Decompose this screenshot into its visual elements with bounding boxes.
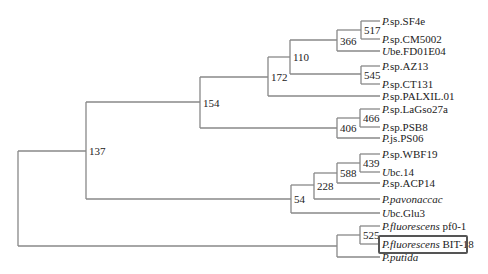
bootstrap-value: 154 (202, 97, 221, 109)
bootstrap-value: 172 (270, 71, 289, 83)
taxon-label: P.pavonaccac (382, 193, 443, 205)
bootstrap-value: 137 (88, 145, 107, 157)
bootstrap-value: 228 (316, 180, 335, 192)
taxon-label: P.sp.LaGso27a (382, 103, 448, 115)
bootstrap-value: 366 (339, 35, 358, 47)
bootstrap-value: 54 (293, 193, 306, 205)
bootstrap-value: 406 (339, 122, 358, 134)
taxon-label: P.sp.WBF19 (382, 148, 437, 160)
bootstrap-value: 588 (339, 167, 358, 179)
taxon-label: P.sp.CT131 (382, 78, 433, 90)
bootstrap-value: 545 (363, 69, 382, 81)
bootstrap-value: 439 (362, 157, 381, 169)
taxon-label: P.js.PS06 (382, 132, 423, 144)
taxon-label: Ubc.Glu3 (382, 207, 425, 219)
taxon-label: P.sp.AZ13 (382, 60, 428, 72)
bootstrap-value: 517 (363, 24, 382, 36)
taxon-label: P.putida (382, 251, 418, 263)
bootstrap-value: 110 (292, 51, 310, 63)
taxon-label: P.sp.SF4e (382, 15, 425, 27)
taxon-label: Ube.FD01E04 (382, 45, 446, 57)
bootstrap-value: 466 (362, 112, 381, 124)
taxon-label: P.sp.CM5002 (382, 33, 442, 45)
taxon-label: P.fluorescens pf0-1 (382, 220, 466, 232)
taxon-label: P.sp.ACP14 (382, 177, 435, 189)
taxon-label: P.sp.PALXIL.01 (382, 90, 454, 102)
